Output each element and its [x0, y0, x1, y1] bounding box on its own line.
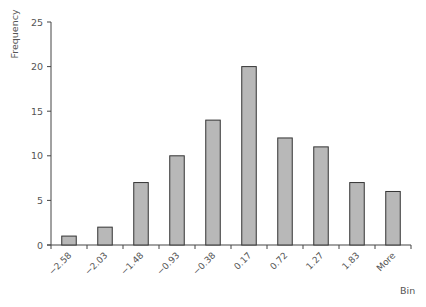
y-tick-label: 20 — [31, 61, 43, 72]
histogram-bar — [98, 227, 113, 245]
histogram-chart: −2.58−2.03−1.48−0.93−0.380.170.721.271.8… — [0, 0, 426, 307]
x-tick-label: 1.83 — [340, 250, 361, 271]
histogram-bar — [62, 236, 77, 245]
bars — [62, 67, 401, 245]
y-axis-label: Frequency — [9, 9, 20, 58]
histogram-bar — [134, 183, 149, 245]
y-tick-label: 25 — [31, 17, 43, 28]
histogram-bar — [386, 191, 401, 245]
y-tick-labels: 0510152025 — [31, 17, 51, 251]
y-tick-label: 15 — [31, 106, 43, 117]
y-tick-label: 10 — [31, 150, 43, 161]
x-tick-label: 0.17 — [232, 250, 253, 271]
x-tick-label: −0.38 — [191, 250, 218, 277]
x-tick-label: More — [375, 250, 398, 273]
x-tick-label: −2.58 — [47, 250, 74, 277]
x-tick-label: −2.03 — [83, 250, 110, 277]
y-tick-label: 0 — [37, 240, 43, 251]
histogram-bar — [314, 147, 329, 245]
x-tick-label: 1.27 — [304, 250, 325, 271]
histogram-bar — [242, 67, 257, 245]
x-tick-label: −0.93 — [155, 250, 182, 277]
x-tick-label: 0.72 — [268, 250, 289, 271]
histogram-bar — [170, 156, 185, 245]
histogram-bar — [350, 183, 365, 245]
histogram-bar — [278, 138, 293, 245]
x-axis-label: Bin — [400, 285, 415, 296]
histogram-bar — [206, 120, 221, 245]
x-tick-labels: −2.58−2.03−1.48−0.93−0.380.170.721.271.8… — [47, 245, 411, 277]
x-tick-label: −1.48 — [119, 250, 146, 277]
y-tick-label: 5 — [37, 195, 43, 206]
